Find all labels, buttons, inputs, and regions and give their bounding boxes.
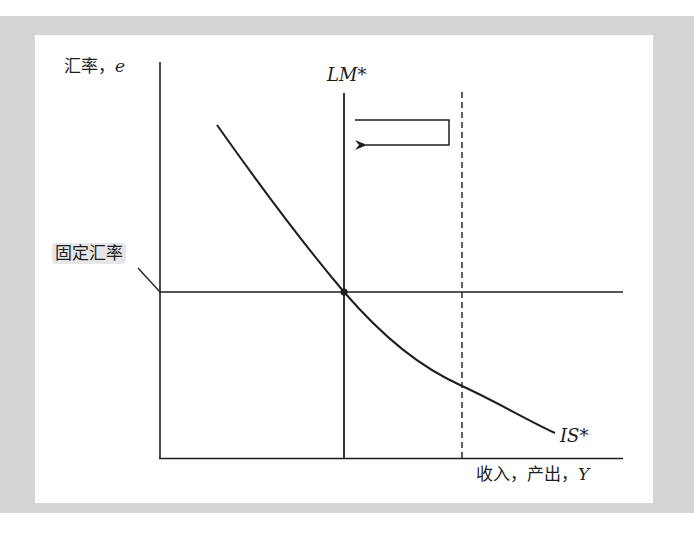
fixed-rate-label: 固定汇率 — [52, 243, 126, 264]
is-star-label: IS* — [560, 427, 588, 445]
x-axis-label-text: 收入，产出， — [476, 464, 578, 484]
equilibrium-point — [340, 288, 347, 295]
x-axis-variable: Y — [578, 464, 589, 484]
y-axis-variable: e — [115, 56, 125, 76]
figure-frame: 汇率，e 收入，产出，Y 固定汇率 LM* IS* — [0, 0, 694, 538]
fixed-rate-leader-line — [138, 268, 160, 292]
y-axis-label: 汇率，e — [64, 58, 125, 75]
y-axis-label-text: 汇率， — [64, 56, 115, 76]
lm-star-label: LM* — [327, 66, 366, 84]
is-star-curve — [217, 125, 555, 433]
x-axis-label: 收入，产出，Y — [476, 466, 589, 483]
shift-arrow — [355, 120, 449, 145]
